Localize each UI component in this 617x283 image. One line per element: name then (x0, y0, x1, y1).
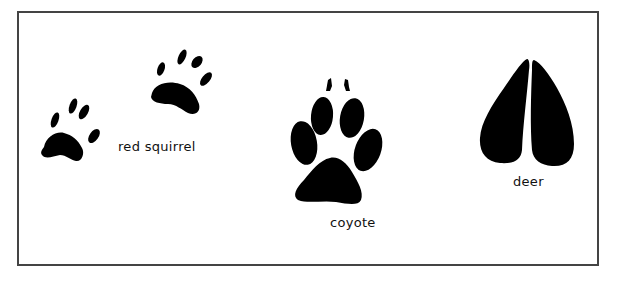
deer-label: deer (513, 174, 544, 189)
red-squirrel-track-icon (41, 97, 102, 161)
deer-track-icon (480, 59, 574, 166)
red-squirrel-label: red squirrel (118, 139, 196, 154)
coyote-label: coyote (330, 215, 376, 230)
tracks-illustration (0, 0, 617, 283)
red-squirrel-track-icon (151, 48, 214, 114)
coyote-track-icon (287, 78, 387, 204)
